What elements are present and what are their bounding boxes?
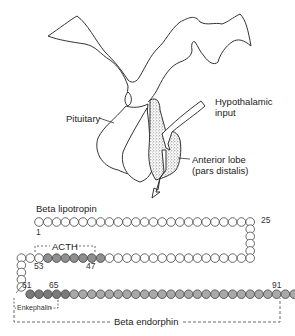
pituitary-lobes bbox=[97, 104, 152, 182]
residue-38 bbox=[176, 254, 185, 263]
residue-65 bbox=[61, 290, 70, 299]
residue-6 bbox=[79, 218, 88, 227]
residue-22 bbox=[220, 218, 229, 227]
residue-66 bbox=[70, 290, 79, 299]
residue-78 bbox=[176, 290, 185, 299]
residue-82 bbox=[211, 290, 220, 299]
residue-71 bbox=[114, 290, 123, 299]
residue-21 bbox=[211, 218, 220, 227]
residue-number-47: 47 bbox=[86, 261, 95, 271]
residue-18 bbox=[184, 218, 193, 227]
residue-85 bbox=[237, 290, 246, 299]
pituitary-diagram bbox=[0, 0, 295, 336]
residue-number-91: 91 bbox=[272, 280, 281, 290]
residue-90 bbox=[281, 290, 290, 299]
label-beta-lipotropin: Beta lipotropin bbox=[36, 203, 97, 214]
residue-70 bbox=[105, 290, 114, 299]
beta-lipotropin-chain bbox=[17, 218, 295, 299]
residue-23 bbox=[228, 218, 237, 227]
hypothalamus-outline bbox=[48, 14, 251, 102]
residue-13 bbox=[140, 218, 149, 227]
residue-10 bbox=[114, 218, 123, 227]
residue-30 bbox=[246, 254, 255, 263]
residue-number-61: 61 bbox=[22, 280, 31, 290]
residue-19 bbox=[193, 218, 202, 227]
residue-9 bbox=[105, 218, 114, 227]
residue-91 bbox=[290, 290, 295, 299]
residue-50 bbox=[70, 254, 79, 263]
residue-36 bbox=[193, 254, 202, 263]
residue-1 bbox=[35, 218, 44, 227]
residue-40 bbox=[158, 254, 167, 263]
residue-number-53: 53 bbox=[34, 261, 43, 271]
label-beta-endorphin: Beta endorphin bbox=[114, 316, 178, 327]
residue-44 bbox=[123, 254, 132, 263]
label-anterior-lobe: Anterior lobe (pars distalis) bbox=[192, 154, 249, 176]
residue-73 bbox=[132, 290, 141, 299]
residue-83 bbox=[220, 290, 229, 299]
residue-74 bbox=[140, 290, 149, 299]
residue-61 bbox=[26, 290, 35, 299]
label-hypothalamic-line2: input bbox=[215, 107, 273, 118]
residue-42 bbox=[140, 254, 149, 263]
residue-31 bbox=[237, 254, 246, 263]
residue-52 bbox=[52, 254, 61, 263]
residue-20 bbox=[202, 218, 211, 227]
label-pituitary: Pituitary bbox=[66, 113, 100, 124]
residue-39 bbox=[167, 254, 176, 263]
residue-15 bbox=[158, 218, 167, 227]
residue-62 bbox=[35, 290, 44, 299]
residue-4 bbox=[61, 218, 70, 227]
label-anterior-lobe-line1: Anterior lobe bbox=[192, 154, 249, 165]
residue-17 bbox=[176, 218, 185, 227]
residue-12 bbox=[132, 218, 141, 227]
residue-63 bbox=[44, 290, 53, 299]
residue-2 bbox=[44, 218, 53, 227]
label-hypothalamic-input: Hypothalamic input bbox=[215, 96, 273, 118]
residue-64 bbox=[52, 290, 61, 299]
residue-8 bbox=[96, 218, 105, 227]
residue-80 bbox=[193, 290, 202, 299]
residue-33 bbox=[220, 254, 229, 263]
label-acth: ACTH bbox=[52, 241, 78, 252]
residue-87 bbox=[255, 290, 264, 299]
residue-46 bbox=[105, 254, 114, 263]
residue-75 bbox=[149, 290, 158, 299]
residue-81 bbox=[202, 290, 211, 299]
residue-24 bbox=[237, 218, 246, 227]
residue-14 bbox=[149, 218, 158, 227]
residue-7 bbox=[88, 218, 97, 227]
label-hypothalamic-line1: Hypothalamic bbox=[215, 96, 273, 107]
residue-34 bbox=[211, 254, 220, 263]
residue-47 bbox=[96, 254, 105, 263]
residue-number-65: 65 bbox=[49, 280, 58, 290]
residue-88 bbox=[264, 290, 273, 299]
label-anterior-lobe-line2: (pars distalis) bbox=[192, 165, 249, 176]
residue-79 bbox=[184, 290, 193, 299]
residue-35 bbox=[202, 254, 211, 263]
residue-37 bbox=[184, 254, 193, 263]
residue-76 bbox=[158, 290, 167, 299]
residue-43 bbox=[132, 254, 141, 263]
residue-67 bbox=[79, 290, 88, 299]
residue-53 bbox=[44, 254, 53, 263]
label-enkephalin: Enkephalin bbox=[17, 304, 52, 312]
residue-3 bbox=[52, 218, 61, 227]
residue-5 bbox=[70, 218, 79, 227]
residue-84 bbox=[228, 290, 237, 299]
residue-69 bbox=[96, 290, 105, 299]
residue-45 bbox=[114, 254, 123, 263]
pars-tuberalis bbox=[125, 92, 131, 106]
residue-51 bbox=[61, 254, 70, 263]
residue-16 bbox=[167, 218, 176, 227]
residue-72 bbox=[123, 290, 132, 299]
residue-86 bbox=[246, 290, 255, 299]
residue-11 bbox=[123, 218, 132, 227]
residue-32 bbox=[228, 254, 237, 263]
residue-89 bbox=[272, 290, 281, 299]
residue-68 bbox=[88, 290, 97, 299]
residue-number-25: 25 bbox=[261, 215, 270, 225]
residue-77 bbox=[167, 290, 176, 299]
residue-number-1: 1 bbox=[36, 227, 41, 237]
residue-41 bbox=[149, 254, 158, 263]
